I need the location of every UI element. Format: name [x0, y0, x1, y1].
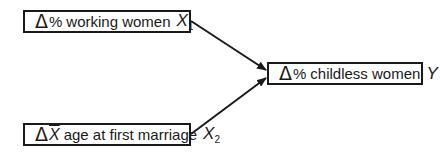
variable-symbol: Y: [426, 64, 437, 84]
edge-x1-to-y: [191, 21, 266, 70]
percent-symbol: %: [49, 13, 62, 30]
variable-subscript: 2: [214, 134, 220, 145]
delta-symbol: Δ: [279, 64, 292, 83]
percent-symbol: %: [293, 65, 306, 82]
delta-symbol: Δ: [35, 125, 48, 144]
node-label: childless women: [310, 65, 420, 82]
variable-symbol: X2: [203, 124, 220, 145]
node-working-women-x1: Δ % working women X1: [23, 10, 191, 33]
variable-symbol: X1: [177, 11, 194, 32]
node-childless-women-y: Δ % childless women Y: [267, 62, 423, 85]
variable-subscript: 1: [188, 21, 194, 32]
mean-x-bar-symbol: X: [49, 126, 60, 144]
delta-symbol: Δ: [35, 12, 48, 31]
node-age-first-marriage-x2: Δ X age at first marriage X2: [23, 123, 191, 146]
node-label: age at first marriage: [64, 126, 197, 143]
node-label: working women: [66, 13, 170, 30]
